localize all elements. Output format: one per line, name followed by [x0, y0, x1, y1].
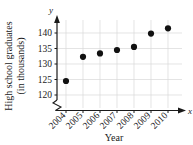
x-tick-label: 2010 [149, 110, 170, 131]
y-axis-title-line2: (in thousands) [15, 38, 27, 95]
y-tick-label: 135 [38, 44, 53, 54]
y-tick-label: 120 [38, 90, 53, 100]
x-axis-arrowhead [178, 108, 186, 114]
y-tick-label: 130 [38, 59, 53, 69]
x-tick-label: 2009 [132, 110, 153, 131]
data-point [97, 50, 103, 56]
horizontal-gridlines [57, 33, 182, 95]
data-point [165, 25, 171, 31]
data-point [148, 30, 154, 36]
y-axis-arrowhead [54, 15, 60, 23]
scatter-plot: 140 135 130 125 120 2004 2005 2006 2007 … [0, 0, 193, 145]
x-tick-label: 2004 [47, 110, 68, 131]
x-tick-label: 2006 [81, 110, 102, 131]
data-point [131, 44, 137, 50]
data-point [114, 47, 120, 53]
x-tick-label: 2008 [115, 110, 136, 131]
x-tick-label: 2007 [98, 110, 119, 131]
x-axis-variable-label: x [187, 106, 192, 116]
x-axis-title: Year [105, 132, 124, 143]
data-point [63, 78, 69, 84]
y-tick-labels: 140 135 130 125 120 [38, 28, 53, 100]
y-tick-label: 140 [38, 28, 53, 38]
chart-container: 140 135 130 125 120 2004 2005 2006 2007 … [0, 0, 193, 145]
y-axis-break-icon [53, 100, 61, 111]
y-axis-variable-label: y [48, 5, 53, 15]
y-axis [53, 15, 61, 111]
x-tick-labels: 2004 2005 2006 2007 2008 2009 2010 [47, 110, 170, 131]
x-tick-label: 2005 [64, 110, 85, 131]
y-tick-label: 125 [38, 75, 53, 85]
y-axis-title: High school graduates (in thousands) [3, 21, 27, 111]
data-point [80, 54, 86, 60]
y-axis-title-line1: High school graduates [3, 21, 14, 111]
